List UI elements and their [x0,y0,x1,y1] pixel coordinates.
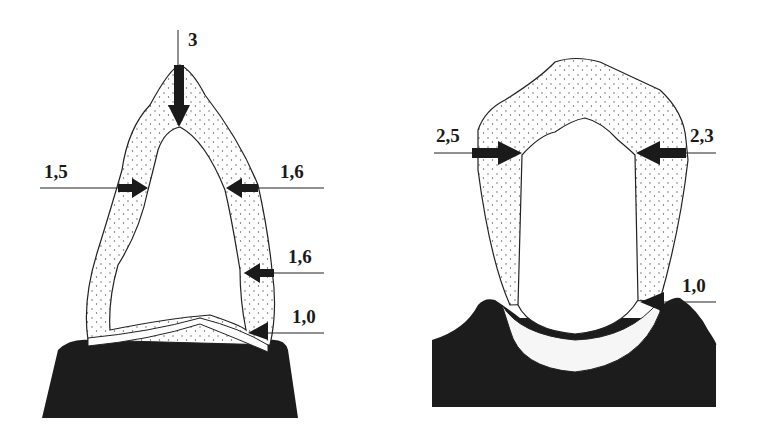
label-cervical-right-tooth: 1,0 [682,276,706,295]
label-right-upper-right-tooth: 2,3 [690,126,714,145]
label-right-lower: 1,6 [288,247,312,266]
diagram-canvas [0,0,763,443]
label-incisal: 3 [188,30,198,49]
right-tooth [432,59,716,408]
label-left-mid: 1,5 [44,162,68,181]
right-core [518,118,638,334]
label-cervical: 1,0 [292,307,316,326]
label-right-upper: 1,6 [280,162,304,181]
left-tooth [40,30,324,418]
label-left-upper-right-tooth: 2,5 [436,126,460,145]
